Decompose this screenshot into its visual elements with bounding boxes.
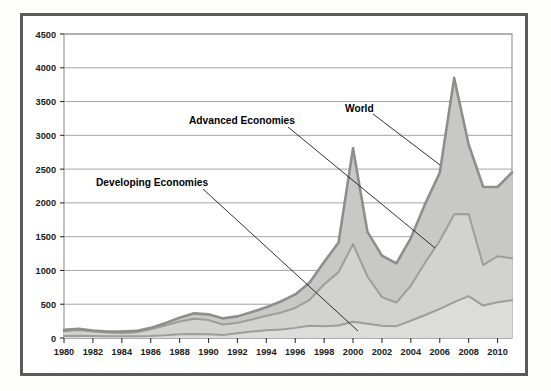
x-tick-label: 1998 <box>314 347 334 357</box>
series-annotation-label: Developing Economies <box>96 177 208 188</box>
y-tick-label: 0 <box>51 334 56 344</box>
y-tick-label: 1000 <box>36 266 56 276</box>
x-tick-label: 1996 <box>285 347 305 357</box>
area-chart-svg: 0500100015002000250030003500400045001980… <box>0 0 551 391</box>
series-annotation-label: Advanced Economies <box>189 115 295 126</box>
x-tick-label: 1988 <box>169 347 189 357</box>
x-tick-label: 2010 <box>487 347 507 357</box>
y-tick-label: 1500 <box>36 232 56 242</box>
x-tick-label: 2002 <box>372 347 392 357</box>
y-tick-label: 3000 <box>36 131 56 141</box>
y-tick-label: 3500 <box>36 97 56 107</box>
x-tick-label: 1984 <box>112 347 133 357</box>
x-tick-label: 1992 <box>227 347 247 357</box>
y-tick-label: 4000 <box>36 63 56 73</box>
x-tick-label: 1982 <box>83 347 103 357</box>
y-tick-label: 2000 <box>36 198 56 208</box>
x-tick-label: 2006 <box>430 347 450 357</box>
y-tick-label: 500 <box>41 300 56 310</box>
y-tick-label: 2500 <box>36 165 56 175</box>
figure-container: 0500100015002000250030003500400045001980… <box>0 0 551 391</box>
x-tick-label: 1980 <box>54 347 74 357</box>
x-axis: 1980198219841986198819901992199419961998… <box>54 338 508 357</box>
series-annotation-label: World <box>345 103 374 114</box>
y-axis: 050010001500200025003000350040004500 <box>36 30 64 344</box>
x-tick-label: 2000 <box>343 347 363 357</box>
x-tick-label: 2008 <box>458 347 478 357</box>
x-tick-label: 1986 <box>140 347 160 357</box>
y-tick-label: 4500 <box>36 30 56 40</box>
x-tick-label: 1990 <box>198 347 218 357</box>
x-tick-label: 2004 <box>401 347 422 357</box>
x-tick-label: 1994 <box>256 347 277 357</box>
